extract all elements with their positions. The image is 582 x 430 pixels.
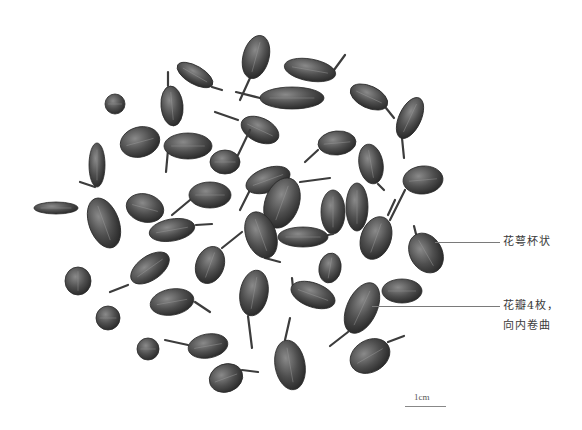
bud-stem — [388, 336, 404, 342]
flower-bud — [210, 130, 250, 174]
flower-bud — [205, 359, 258, 397]
flower-bud — [402, 226, 451, 279]
calyx-label: 花萼杯状 — [503, 232, 551, 252]
flower-bud — [172, 182, 231, 215]
flower-bud — [65, 267, 91, 295]
flower-bud-specimens — [0, 0, 582, 430]
flower-bud — [317, 251, 344, 284]
flower-bud — [96, 306, 120, 330]
flower-bud — [137, 338, 159, 360]
flower-bud — [391, 93, 430, 158]
flower-bud — [117, 122, 163, 161]
flower-bud — [346, 79, 394, 118]
calyx-leader-line — [435, 242, 500, 243]
bud-stem — [240, 78, 250, 100]
bud-stem — [378, 184, 384, 190]
flower-bud — [344, 332, 404, 381]
bud-stem — [265, 258, 280, 262]
flower-bud — [278, 227, 333, 247]
bud-stem — [195, 302, 210, 312]
bud-stem — [215, 112, 238, 120]
flower-bud — [356, 142, 387, 190]
scale-bar — [405, 406, 446, 407]
bud-stem — [248, 316, 252, 348]
flower-bud — [173, 57, 222, 93]
bud-stem — [110, 285, 128, 292]
flower-bud — [81, 193, 127, 252]
flower-bud — [148, 285, 210, 318]
flower-bud — [34, 202, 78, 214]
flower-bud — [305, 129, 357, 162]
bud-stem — [386, 108, 394, 118]
scale-bar-label: 1cm — [414, 392, 430, 402]
flower-bud — [164, 133, 212, 172]
flower-bud — [110, 246, 175, 292]
bud-stem — [240, 190, 250, 210]
specimen-figure: 花萼杯状 花瓣4枚， 向内卷曲 1cm — [0, 0, 582, 430]
flower-bud — [282, 55, 345, 86]
bud-stem — [330, 332, 348, 346]
flower-bud — [123, 190, 167, 227]
flower-bud — [271, 318, 309, 392]
bud-stem — [222, 232, 242, 248]
flower-bud — [238, 32, 275, 100]
bud-stem — [414, 226, 416, 234]
flower-bud — [80, 143, 105, 187]
bud-stem — [212, 87, 222, 90]
bud-stem — [172, 200, 190, 215]
bud-stem — [236, 92, 260, 98]
flower-bud — [330, 277, 387, 346]
flower-bud — [390, 164, 444, 220]
bud-stem — [165, 340, 188, 345]
flower-bud — [105, 94, 125, 114]
petals-label-line1: 花瓣4枚， — [503, 296, 559, 316]
bud-stem — [300, 178, 330, 182]
petals-label-line2: 向内卷曲 — [503, 316, 551, 336]
flower-bud — [346, 183, 368, 231]
petals-leader-line — [372, 306, 500, 307]
bud-stem — [285, 318, 290, 340]
bud-stem — [328, 234, 333, 235]
bud-stem — [242, 370, 258, 372]
flower-bud — [236, 87, 324, 109]
flower-bud — [236, 268, 272, 348]
flower-bud — [382, 279, 422, 303]
flower-bud — [190, 232, 242, 288]
bud-stem — [402, 138, 404, 158]
bud-stem — [305, 150, 318, 162]
flower-bud — [165, 331, 230, 362]
bud-stem — [334, 55, 345, 70]
bud-stem — [196, 224, 212, 225]
flower-bud — [321, 190, 345, 234]
bud-stem — [238, 130, 250, 155]
flower-bud — [159, 72, 184, 127]
